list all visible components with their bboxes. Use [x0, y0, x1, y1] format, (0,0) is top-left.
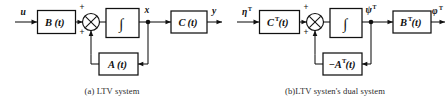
output-gain-block-label: B — [399, 17, 407, 28]
signal-label-input: η — [242, 6, 247, 17]
arrowhead-input — [32, 20, 38, 25]
wire-state — [362, 20, 393, 25]
input-gain-block-arg: (t) — [279, 17, 289, 29]
signal-label-output-superscript: T — [439, 5, 443, 11]
ltv-system-diagram: u B (t) + + — [0, 0, 224, 86]
input-gain-block[interactable]: C T (t) — [260, 11, 300, 34]
signal-label-state-superscript: T — [373, 4, 377, 10]
feedback-block-arg: (t) — [346, 59, 356, 71]
input-gain-block-label: B — [44, 17, 52, 28]
feedback-block-label: −A — [329, 59, 342, 70]
summing-junction[interactable] — [307, 14, 324, 31]
wire-state — [139, 20, 171, 25]
panel-b-caption: (b)LTV systen's dual system — [223, 86, 447, 96]
arrowhead-feedback-block — [138, 62, 143, 67]
arrowhead-sum-left — [302, 20, 307, 24]
input-wire — [15, 20, 37, 25]
feedback-block-arg: (t) — [117, 59, 127, 71]
arrowhead-output — [217, 20, 223, 25]
output-gain-block-arg: (t) — [412, 17, 422, 29]
panel-a-caption: (a) LTV system — [0, 86, 224, 96]
wire-gain-to-sum — [76, 20, 83, 24]
output-gain-block-label: C — [179, 17, 187, 28]
panel-ltv-system: u B (t) + + — [0, 0, 224, 107]
summing-junction-sign-top: + — [304, 2, 309, 12]
signal-label-state: x — [144, 4, 150, 15]
feedback-block-label: A — [107, 59, 115, 70]
arrowhead-feedback-sum — [89, 31, 94, 37]
signal-label-output: φ — [432, 5, 438, 16]
output-gain-block-arg: (t) — [188, 17, 198, 29]
panel-dual-system: η T C T (t) + + — [223, 0, 447, 107]
feedback-block[interactable]: A (t) — [99, 53, 138, 75]
input-gain-block[interactable]: B (t) — [38, 11, 76, 34]
figure-container: u B (t) + + — [0, 0, 447, 107]
arrowhead-output-gain — [166, 20, 172, 25]
summing-junction-sign-bottom: + — [304, 27, 309, 37]
signal-label-output: y — [211, 5, 217, 16]
arrowhead-feedback-block — [362, 62, 367, 67]
output-wire — [431, 20, 445, 25]
signal-label-input: u — [21, 6, 27, 17]
input-wire — [237, 20, 259, 25]
signal-label-state: ψ — [366, 4, 373, 15]
signal-label-input-superscript: T — [248, 6, 252, 12]
arrowhead-sum-left — [78, 20, 83, 24]
arrowhead-output-gain — [388, 20, 394, 25]
summing-junction-sign-bottom: + — [80, 27, 85, 37]
arrowhead-input — [254, 20, 260, 25]
summing-junction-sign-top: + — [80, 2, 85, 12]
output-wire — [207, 20, 222, 25]
integrator-block[interactable]: ∫ — [106, 9, 139, 38]
feedback-block[interactable]: −A T (t) — [323, 53, 362, 75]
output-gain-block[interactable]: C (t) — [171, 11, 207, 33]
input-gain-block-arg: (t) — [55, 17, 65, 29]
wire-gain-to-sum — [300, 20, 307, 24]
arrowhead-output — [440, 20, 446, 25]
arrowhead-feedback-sum — [313, 31, 318, 37]
integrator-block[interactable]: ∫ — [330, 9, 362, 38]
output-gain-block[interactable]: B T (t) — [393, 11, 431, 33]
dual-system-diagram: η T C T (t) + + — [223, 0, 447, 86]
input-gain-block-label: C — [267, 17, 275, 28]
summing-junction[interactable] — [83, 14, 100, 31]
